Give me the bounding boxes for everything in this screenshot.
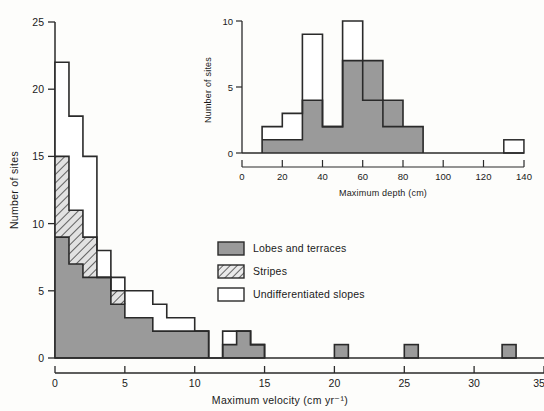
inset-x-axis-title: Maximum depth (cm) <box>339 188 427 198</box>
inset-xtick-140: 140 <box>516 171 532 182</box>
main-ytick-0: 0 <box>38 352 44 364</box>
main-bar-20 <box>334 345 348 358</box>
inset-xtick-80: 80 <box>398 171 409 182</box>
inset-bar-130 <box>504 140 524 153</box>
solid-gray-swatch <box>218 242 244 255</box>
legend-label-lobes-and-terraces: Lobes and terraces <box>253 242 347 254</box>
main-x-axis-title: Maximum velocity (cm yr⁻¹) <box>212 394 348 406</box>
inset-ytick-10: 10 <box>222 16 233 27</box>
main-xtick-20: 20 <box>329 377 341 389</box>
white-swatch <box>218 288 244 301</box>
inset-xtick-0: 0 <box>239 171 244 182</box>
main-ytick-20: 20 <box>32 83 44 95</box>
inset-xtick-40: 40 <box>317 171 328 182</box>
legend-label-stripes: Stripes <box>253 265 287 277</box>
inset-ytick-0: 0 <box>228 148 233 159</box>
main-xtick-10: 10 <box>189 377 201 389</box>
main-ytick-10: 10 <box>32 218 44 230</box>
main-xtick-35: 35 <box>533 377 544 389</box>
inset-y-axis-title: Number of sites <box>203 57 213 123</box>
main-xtick-5: 5 <box>122 377 128 389</box>
main-ytick-15: 15 <box>32 150 44 162</box>
main-xtick-25: 25 <box>398 377 410 389</box>
main-bar-32 <box>502 345 516 358</box>
legend-label-undifferentiated-slopes: Undifferentiated slopes <box>253 288 365 300</box>
main-ytick-5: 5 <box>38 285 44 297</box>
hatched-swatch <box>218 265 244 278</box>
inset-xtick-120: 120 <box>476 171 492 182</box>
inset-xtick-60: 60 <box>357 171 368 182</box>
inset-xtick-100: 100 <box>435 171 451 182</box>
histogram-figure: 25 20 15 10 5 0 Number of sites <box>0 0 544 411</box>
main-xtick-0: 0 <box>52 377 58 389</box>
main-xtick-30: 30 <box>468 377 480 389</box>
main-y-axis-title: Number of sites <box>8 151 20 229</box>
main-bar-25 <box>404 345 418 358</box>
inset-ytick-5: 5 <box>228 82 233 93</box>
main-xtick-15: 15 <box>259 377 271 389</box>
figure-container: 25 20 15 10 5 0 Number of sites <box>0 0 544 411</box>
inset-xtick-20: 20 <box>277 171 288 182</box>
main-ytick-25: 25 <box>32 16 44 28</box>
